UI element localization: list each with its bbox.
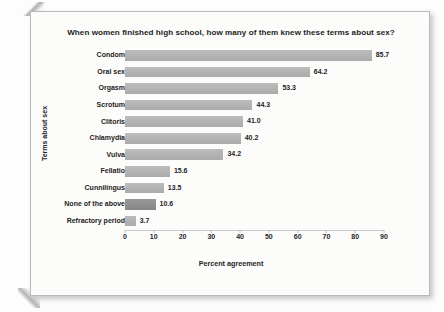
bar-category-label: Orgasm xyxy=(99,84,125,91)
x-axis-tick-label: 20 xyxy=(179,233,187,240)
x-axis-tick-label: 10 xyxy=(150,233,158,240)
bar-fill xyxy=(125,166,170,177)
bar-value-label: 64.2 xyxy=(314,68,328,75)
bar-series: Condom85.7Oral sex64.2Orgasm53.3Scrotum4… xyxy=(31,48,431,230)
bar-value-label: 85.7 xyxy=(376,51,390,58)
bar-fill xyxy=(125,199,156,210)
bar-row: None of the above10.6 xyxy=(31,197,431,214)
bar-row: Fellatio15.6 xyxy=(31,164,431,181)
bar-value-label: 41.0 xyxy=(247,117,261,124)
x-axis-title: Percent agreement xyxy=(31,259,431,268)
x-axis-tick-labels: 0102030405060708090 xyxy=(31,233,431,247)
bar-row: Oral sex64.2 xyxy=(31,65,431,82)
bar-track xyxy=(125,199,156,210)
x-axis-tick-label: 40 xyxy=(236,233,244,240)
bar-fill xyxy=(125,50,372,61)
bar-chart-plot-area: Terms about sex Condom85.7Oral sex64.2Or… xyxy=(31,12,431,297)
bar-category-label: Condom xyxy=(97,51,125,58)
bar-track xyxy=(125,133,241,144)
bar-row: Chlamydia40.2 xyxy=(31,131,431,148)
bar-track xyxy=(125,67,310,78)
bar-track xyxy=(125,183,164,194)
bar-row: Condom85.7 xyxy=(31,48,431,65)
bar-track xyxy=(125,216,136,227)
x-axis-tick-label: 90 xyxy=(380,233,388,240)
bar-row: Orgasm53.3 xyxy=(31,81,431,98)
x-axis-line xyxy=(125,230,384,231)
bar-value-label: 53.3 xyxy=(282,84,296,91)
bar-category-label: Vulva xyxy=(107,151,125,158)
bar-category-label: Oral sex xyxy=(97,68,125,75)
bar-track xyxy=(125,50,372,61)
chart-figure-card: When women finished high school, how man… xyxy=(30,11,430,296)
bar-value-label: 3.7 xyxy=(140,217,150,224)
bar-fill xyxy=(125,149,223,160)
bar-track xyxy=(125,149,223,160)
bar-value-label: 40.2 xyxy=(245,134,259,141)
x-axis-tick-label: 70 xyxy=(323,233,331,240)
bar-category-label: None of the above xyxy=(64,200,125,207)
x-axis-tick-label: 80 xyxy=(351,233,359,240)
bar-category-label: Cunnilingus xyxy=(85,184,125,191)
bar-value-label: 13.5 xyxy=(168,184,182,191)
bar-row: Clitoris41.0 xyxy=(31,114,431,131)
bar-category-label: Fellatio xyxy=(100,167,125,174)
bar-track xyxy=(125,166,170,177)
bar-row: Scrotum44.3 xyxy=(31,98,431,115)
bar-category-label: Scrotum xyxy=(97,101,125,108)
x-axis-tick-label: 60 xyxy=(294,233,302,240)
bar-track xyxy=(125,116,243,127)
x-axis-tick-label: 30 xyxy=(207,233,215,240)
bar-category-label: Clitoris xyxy=(101,118,125,125)
bar-value-label: 44.3 xyxy=(256,101,270,108)
bar-value-label: 10.6 xyxy=(160,200,174,207)
scanned-page-background: When women finished high school, how man… xyxy=(0,0,444,312)
bar-value-label: 34.2 xyxy=(227,150,241,157)
bar-row: Vulva34.2 xyxy=(31,147,431,164)
bar-category-label: Chlamydia xyxy=(90,134,125,141)
bar-fill xyxy=(125,67,310,78)
bar-track xyxy=(125,100,252,111)
bar-fill xyxy=(125,133,241,144)
x-axis-tick-label: 0 xyxy=(123,233,127,240)
bar-row: Refractory period3.7 xyxy=(31,213,431,230)
bar-value-label: 15.6 xyxy=(174,167,188,174)
bar-fill xyxy=(125,83,278,94)
bar-fill xyxy=(125,116,243,127)
bar-row: Cunnilingus13.5 xyxy=(31,180,431,197)
bar-fill xyxy=(125,100,252,111)
bar-track xyxy=(125,83,278,94)
bar-category-label: Refractory period xyxy=(67,217,125,224)
bar-fill xyxy=(125,183,164,194)
x-axis-tick-label: 50 xyxy=(265,233,273,240)
bar-fill xyxy=(125,216,136,227)
